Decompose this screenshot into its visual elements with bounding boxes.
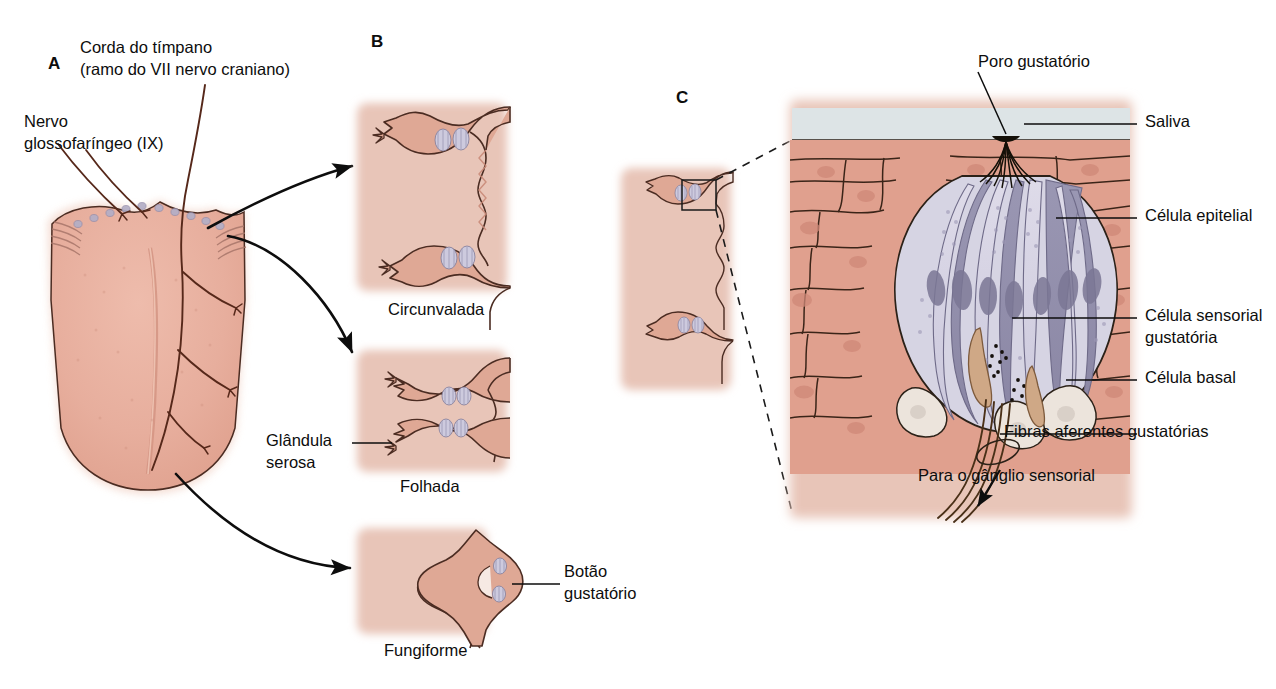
- label-glossopharyngeal-line2: glossofaríngeo (IX): [24, 134, 163, 153]
- panel-letter-b: B: [371, 32, 383, 52]
- caption-circumvallate: Circunvalada: [388, 300, 484, 319]
- panel-c-detail-group: [672, 0, 1132, 522]
- label-taste-bud-line2: gustatório: [564, 584, 636, 603]
- label-serous-gland-line1: Glândula: [266, 431, 332, 450]
- panel-letter-a: A: [48, 54, 60, 74]
- label-afferent-fibers: Fibras aferentes gustatórias: [1004, 422, 1209, 441]
- label-chorda-tympani-line1: Corda do tímpano: [80, 38, 212, 57]
- panel-letter-c: C: [676, 88, 688, 108]
- panel-c-inset-group: [621, 140, 792, 512]
- figure-canvas: A B C Corda do tímpano (ramo do VII nerv…: [0, 0, 1276, 689]
- papilla-circumvallate-group: [357, 103, 510, 330]
- label-sensory-cell-line2: gustatória: [1145, 328, 1217, 347]
- label-taste-pore: Poro gustatório: [978, 52, 1090, 71]
- label-epithelial-cell: Célula epitelial: [1145, 206, 1252, 225]
- label-serous-gland-line2: serosa: [266, 453, 316, 472]
- papilla-fungiform-group: [357, 528, 523, 648]
- label-to-ganglion: Para o gânglio sensorial: [918, 466, 1095, 485]
- caption-foliate: Folhada: [400, 477, 460, 496]
- arrow-to-fungiform: [176, 474, 350, 568]
- label-sensory-cell-line1: Célula sensorial: [1145, 306, 1262, 325]
- label-basal-cell: Célula basal: [1145, 368, 1236, 387]
- label-chorda-tympani-line2: (ramo do VII nervo craniano): [80, 60, 290, 79]
- label-glossopharyngeal-line1: Nervo: [24, 112, 68, 131]
- label-taste-bud-line1: Botão: [564, 562, 607, 581]
- arrow-to-foliate: [228, 236, 352, 352]
- papilla-foliate-group: [357, 350, 510, 472]
- caption-fungiform: Fungiforme: [384, 641, 467, 660]
- label-saliva: Saliva: [1145, 112, 1190, 131]
- figure-artwork: [0, 0, 1276, 689]
